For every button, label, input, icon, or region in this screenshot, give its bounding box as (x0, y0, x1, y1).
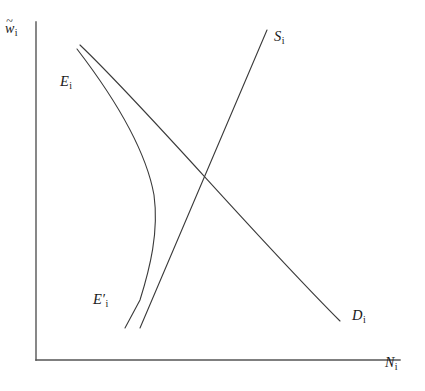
x-axis-label-base: N (385, 355, 394, 370)
demand-curve-label-subscript: i (362, 314, 365, 325)
x-axis-label-subscript: i (394, 361, 397, 372)
tilde-accent-icon: ~ (6, 15, 13, 27)
effort-curve-prime-label-subscript: i (105, 298, 108, 309)
demand-curve-label-base: D (352, 307, 362, 323)
y-axis-label: ~ w i (5, 22, 18, 38)
supply-curve-si (140, 30, 267, 328)
supply-curve-label-subscript: i (281, 35, 284, 46)
effort-curve-label: Ei (60, 74, 72, 91)
effort-curve-label-subscript: i (69, 80, 72, 91)
plot-canvas (0, 0, 425, 391)
effort-curve-ei (77, 49, 155, 328)
effort-curve-label-base: E (60, 73, 69, 89)
demand-curve-di (80, 45, 340, 321)
effort-curve-prime-label-base: E (93, 291, 102, 307)
effort-curve-prime-label: E′i (93, 292, 108, 309)
economics-diagram-figure: ~ w i Ni Ei E′i Si Di (0, 0, 425, 391)
supply-curve-label: Si (274, 29, 284, 46)
y-axis-label-subscript: i (14, 27, 17, 38)
demand-curve-label: Di (352, 308, 366, 325)
y-axis-label-base-wrap: ~ w (5, 22, 14, 36)
x-axis-label: Ni (385, 356, 398, 372)
